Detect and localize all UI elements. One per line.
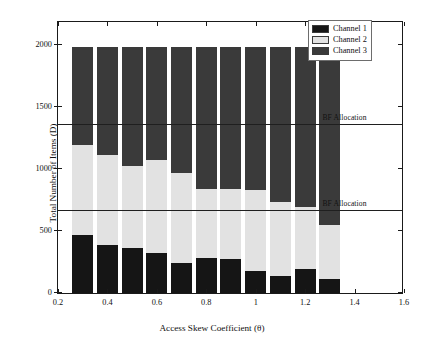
- y-tick-right: [398, 230, 402, 231]
- y-tick-inner: [58, 230, 62, 231]
- bar: [220, 47, 241, 293]
- bar-segment: [196, 189, 217, 258]
- legend-label: Channel 2: [333, 36, 367, 44]
- bar-segment: [319, 279, 340, 293]
- legend-item-1: Channel 1: [312, 24, 367, 35]
- plot-area: BF AllocationBF Allocation 0500100015002…: [57, 21, 403, 294]
- bar-segment: [270, 202, 291, 275]
- x-tick-label: 0.4: [102, 299, 112, 307]
- bar-segment: [97, 155, 118, 246]
- bar-segment: [220, 259, 241, 293]
- bar-segment: [295, 207, 316, 268]
- bf-allocation-line: [58, 210, 402, 211]
- x-tick-label: 0.8: [201, 299, 211, 307]
- bar-segment: [245, 47, 266, 190]
- bar-segment: [220, 47, 241, 190]
- x-tick-top: [157, 22, 158, 26]
- x-tick-label: 1.6: [399, 299, 409, 307]
- x-tick: [355, 289, 356, 293]
- x-tick-label: 1: [254, 299, 258, 307]
- bar-segment: [72, 47, 93, 146]
- y-tick-label: 500: [40, 227, 52, 235]
- bar-segment: [97, 47, 118, 155]
- legend-item-2: Channel 2: [312, 35, 367, 46]
- y-tick-right: [398, 44, 402, 45]
- legend-item-3: Channel 3: [312, 46, 367, 57]
- x-tick-top: [256, 22, 257, 26]
- y-tick-label: 1000: [35, 165, 52, 173]
- x-tick: [157, 289, 158, 293]
- y-tick-inner: [58, 168, 62, 169]
- bar: [295, 47, 316, 293]
- bar: [146, 47, 167, 293]
- y-tick-right: [398, 106, 402, 107]
- legend-label: Channel 3: [333, 47, 367, 55]
- bar: [171, 47, 192, 293]
- x-axis-title: Access Skew Coefficient (θ): [0, 323, 424, 333]
- bar-segment: [72, 235, 93, 293]
- bar-segment: [122, 47, 143, 166]
- bar: [245, 47, 266, 293]
- y-tick-label: 1500: [35, 103, 52, 111]
- x-tick-top: [305, 22, 306, 26]
- bar-segment: [196, 47, 217, 190]
- bar-segment: [146, 160, 167, 254]
- y-tick-inner: [58, 106, 62, 107]
- x-tick-top: [206, 22, 207, 26]
- bf-allocation-label: BF Allocation: [322, 113, 366, 122]
- bar-segment: [122, 166, 143, 248]
- x-tick-top: [58, 22, 59, 26]
- chart-legend: Channel 1Channel 2Channel 3: [308, 20, 372, 61]
- bar-segment: [97, 245, 118, 293]
- bar-segment: [122, 248, 143, 293]
- bar: [196, 47, 217, 293]
- legend-swatch-icon: [312, 47, 329, 55]
- x-tick: [58, 289, 59, 293]
- y-tick-label: 2000: [35, 41, 52, 49]
- y-tick-right: [398, 168, 402, 169]
- y-tick-inner: [58, 44, 62, 45]
- x-tick: [256, 289, 257, 293]
- bar-segment: [295, 47, 316, 208]
- bar-segment: [196, 258, 217, 293]
- x-tick-label: 1.2: [300, 299, 310, 307]
- bar: [319, 47, 340, 293]
- bar-segment: [146, 47, 167, 160]
- bar-segment: [146, 253, 167, 293]
- x-tick-label: 0.2: [53, 299, 63, 307]
- x-tick: [107, 289, 108, 293]
- bar-segment: [319, 225, 340, 279]
- bar-segment: [72, 145, 93, 234]
- bar-segment: [171, 173, 192, 264]
- x-tick: [206, 289, 207, 293]
- x-tick: [404, 289, 405, 293]
- chart-figure: Total Number of Items (D) BF AllocationB…: [0, 0, 424, 345]
- x-tick-label: 0.6: [152, 299, 162, 307]
- bar-segment: [171, 263, 192, 293]
- bar-segment: [245, 190, 266, 271]
- y-tick-label: 0: [48, 289, 52, 297]
- x-tick-top: [404, 22, 405, 26]
- bf-allocation-line: [58, 124, 402, 125]
- bf-allocation-label: BF Allocation: [322, 199, 366, 208]
- bar: [72, 47, 93, 293]
- bar-segment: [171, 47, 192, 173]
- bar-segment: [270, 276, 291, 293]
- bar: [97, 47, 118, 293]
- bar-segment: [220, 189, 241, 258]
- x-tick-label: 1.4: [349, 299, 359, 307]
- bar: [270, 47, 291, 293]
- legend-swatch-icon: [312, 36, 329, 44]
- x-tick: [305, 289, 306, 293]
- x-tick-top: [107, 22, 108, 26]
- y-tick-right: [398, 292, 402, 293]
- legend-swatch-icon: [312, 25, 329, 33]
- legend-label: Channel 1: [333, 25, 367, 33]
- bar: [122, 47, 143, 293]
